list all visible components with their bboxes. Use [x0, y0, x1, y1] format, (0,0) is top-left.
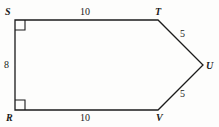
- right-angle-marker-s: [15, 20, 25, 30]
- vertex-label-u: U: [206, 61, 213, 71]
- side-length-rs: 8: [4, 60, 9, 70]
- vertex-label-r: R: [6, 113, 13, 123]
- vertex-label-v: V: [156, 113, 163, 123]
- side-length-uv: 5: [180, 89, 185, 99]
- polygon-drawing: [0, 0, 219, 127]
- geometry-figure: S T U V R 10 5 5 10 8: [0, 0, 219, 127]
- right-angle-marker-r: [15, 100, 25, 110]
- side-length-st: 10: [80, 7, 90, 17]
- vertex-label-s: S: [5, 7, 11, 17]
- pentagon-shape: [15, 20, 203, 110]
- side-length-vr: 10: [80, 113, 90, 123]
- vertex-label-t: T: [155, 7, 161, 17]
- side-length-tu: 5: [180, 29, 185, 39]
